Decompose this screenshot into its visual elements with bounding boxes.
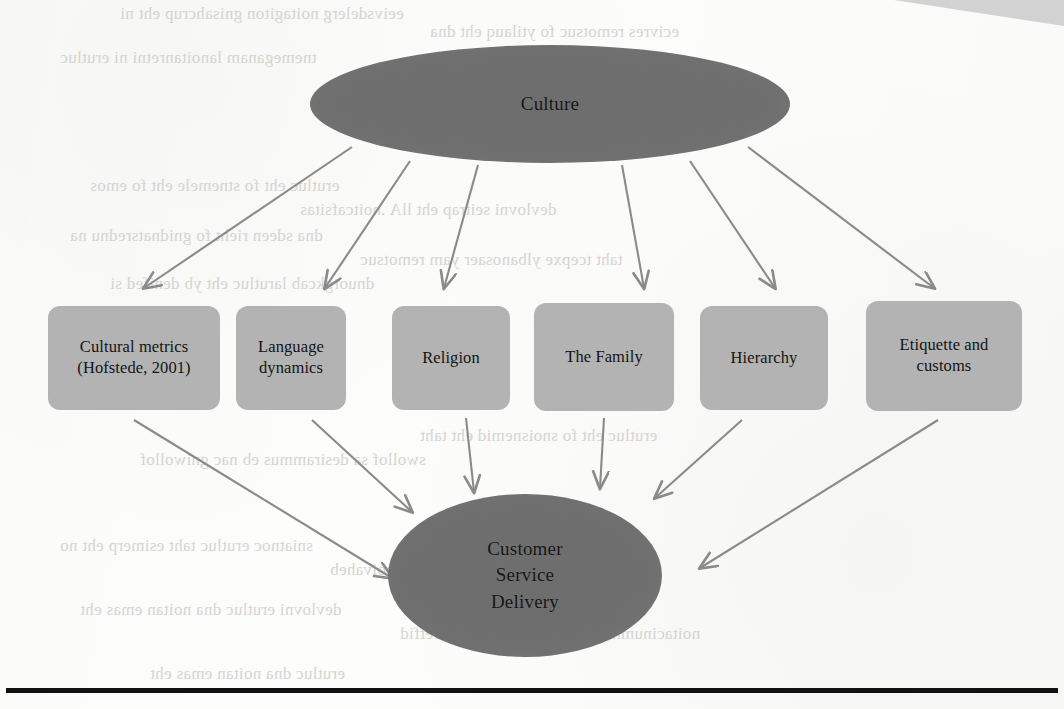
factor-line-1: The Family xyxy=(565,347,643,368)
delivery-line-1: Customer xyxy=(487,536,563,562)
factor-line-1: Religion xyxy=(422,348,480,369)
factor-line-1: Cultural metrics xyxy=(77,337,190,358)
figure-page: eeivsdelerg noitagiton gnisahcrup eht ni… xyxy=(0,0,1064,709)
factor-line-1: Language xyxy=(258,337,324,358)
factor-box-the-family[interactable]: The Family xyxy=(534,303,674,411)
node-layer: Culture Cultural metrics (Hofstede, 2001… xyxy=(0,0,1064,709)
factor-box-language-dynamics[interactable]: Language dynamics xyxy=(236,306,346,410)
factor-line-1: Etiquette and xyxy=(900,335,989,356)
factor-box-text: Etiquette and customs xyxy=(900,335,989,377)
factor-box-text: The Family xyxy=(565,347,643,368)
factor-line-2: (Hofstede, 2001) xyxy=(77,358,190,379)
factor-box-text: Hierarchy xyxy=(731,348,798,369)
delivery-line-2: Service xyxy=(487,562,563,588)
node-culture[interactable]: Culture xyxy=(310,45,790,163)
factor-box-religion[interactable]: Religion xyxy=(392,306,510,410)
factor-line-2: dynamics xyxy=(258,358,324,379)
factor-box-text: Cultural metrics (Hofstede, 2001) xyxy=(77,337,190,379)
page-bottom-rule xyxy=(6,688,1058,693)
factor-box-text: Religion xyxy=(422,348,480,369)
factor-line-1: Hierarchy xyxy=(731,348,798,369)
factor-box-etiquette-and-customs[interactable]: Etiquette and customs xyxy=(866,301,1022,411)
factor-box-text: Language dynamics xyxy=(258,337,324,379)
factor-line-2: customs xyxy=(900,356,989,377)
factor-box-hierarchy[interactable]: Hierarchy xyxy=(700,306,828,410)
delivery-line-3: Delivery xyxy=(487,589,563,615)
node-customer-service-delivery[interactable]: Customer Service Delivery xyxy=(388,494,662,657)
factor-box-cultural-metrics[interactable]: Cultural metrics (Hofstede, 2001) xyxy=(48,306,220,410)
node-culture-label: Culture xyxy=(521,92,579,116)
node-delivery-label: Customer Service Delivery xyxy=(487,536,563,615)
